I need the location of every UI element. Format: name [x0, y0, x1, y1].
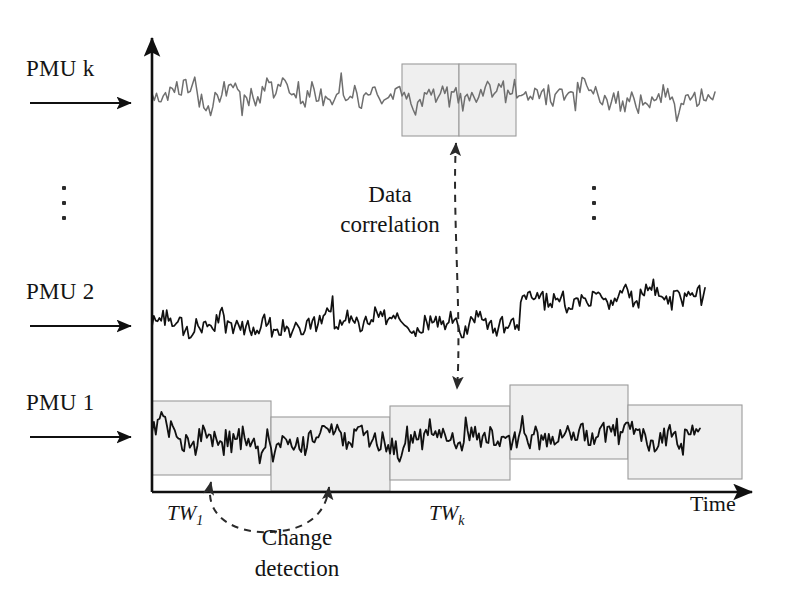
- time-window-box: [459, 64, 516, 136]
- signal-trace-pmu-2: [152, 279, 705, 338]
- label-pmu-2: PMU 2: [26, 279, 95, 305]
- label-tw-k-subscript: k: [458, 513, 464, 528]
- label-tw-1-subscript: 1: [196, 513, 203, 528]
- time-window-box-5: [628, 405, 742, 479]
- vertical-ellipsis-right-icon: [592, 186, 596, 220]
- figure-svg: [0, 0, 794, 606]
- time-window-box-4: [510, 385, 628, 459]
- vertical-ellipsis-left-icon: [62, 186, 66, 220]
- label-tw-1-text: TW: [167, 501, 196, 525]
- figure-canvas: PMU k PMU 2 PMU 1 Data correlation Chang…: [0, 0, 794, 606]
- label-pmu-1: PMU 1: [26, 390, 95, 416]
- pmu-input-arrows: [30, 103, 131, 437]
- label-pmu-k: PMU k: [26, 56, 95, 82]
- label-data-correlation-line2: correlation: [310, 212, 470, 238]
- data-correlation-arrow: [455, 143, 458, 389]
- label-tw-k: TWk: [429, 501, 464, 529]
- label-tw-1: TW1: [167, 501, 203, 529]
- label-change-detection-line1: Change: [222, 525, 372, 551]
- label-tw-k-text: TW: [429, 501, 458, 525]
- label-time-axis: Time: [690, 491, 736, 516]
- label-change-detection-line2: detection: [222, 556, 372, 582]
- label-data-correlation-line1: Data: [330, 182, 450, 208]
